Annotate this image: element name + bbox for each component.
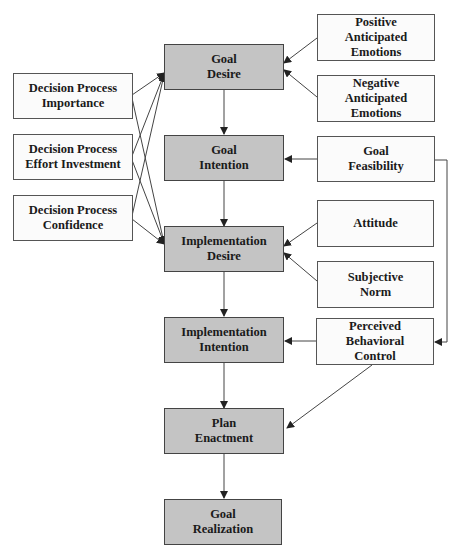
node-goal-realization: Goal Realization (164, 499, 282, 545)
node-goal-desire: Goal Desire (164, 44, 284, 90)
node-plan-enactment: Plan Enactment (164, 408, 284, 454)
node-goal-intention: Goal Intention (164, 135, 284, 181)
node-goal-feasibility: Goal Feasibility (317, 136, 435, 182)
node-attitude: Attitude (317, 200, 434, 247)
node-implementation-intention: Implementation Intention (164, 317, 284, 363)
node-positive-emotions: Positive Anticipated Emotions (317, 14, 435, 61)
node-decision-process-confidence: Decision Process Confidence (13, 195, 133, 241)
node-decision-process-effort: Decision Process Effort Investment (13, 134, 133, 180)
node-negative-emotions: Negative Anticipated Emotions (317, 75, 435, 122)
node-implementation-desire: Implementation Desire (164, 226, 284, 272)
node-decision-process-importance: Decision Process Importance (13, 73, 133, 119)
node-subjective-norm: Subjective Norm (317, 261, 434, 308)
node-perceived-behavioral-control: Perceived Behavioral Control (316, 318, 434, 365)
